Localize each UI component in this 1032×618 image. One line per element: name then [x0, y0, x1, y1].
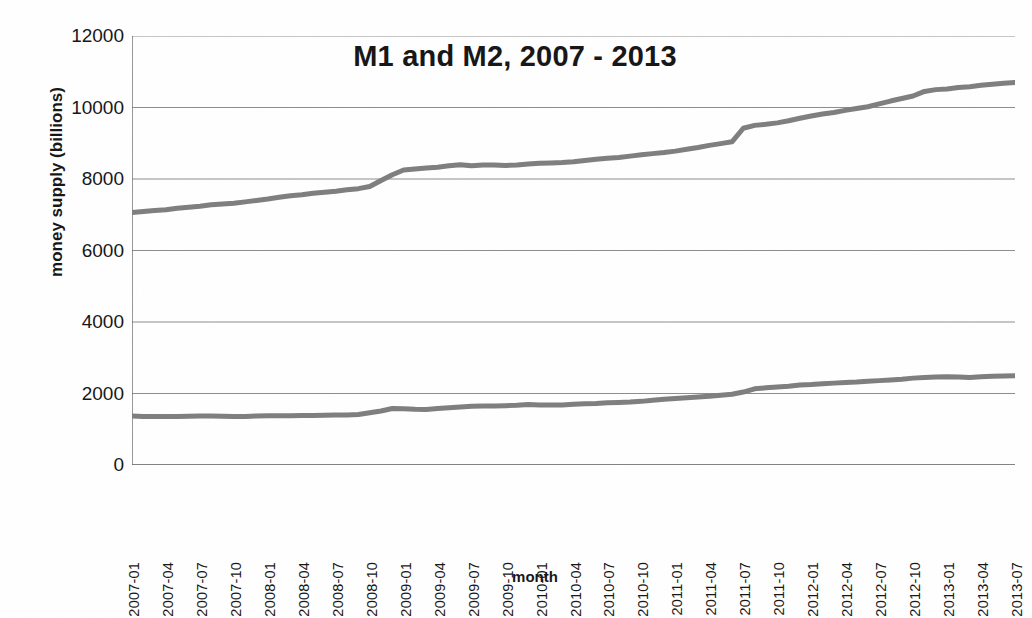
chart-figure: M1 and M2, 2007 - 2013 money supply (bil…	[0, 0, 1032, 618]
y-tick-label: 4000	[6, 311, 124, 333]
plot-area	[132, 36, 1015, 465]
series-line-m1	[132, 376, 1015, 417]
series-line-m2	[132, 82, 1015, 212]
y-tick-label: 10000	[6, 97, 124, 119]
data-series-group	[132, 82, 1015, 416]
y-tick-label: 8000	[6, 168, 124, 190]
y-tick-label: 2000	[6, 383, 124, 405]
y-tick-label: 6000	[6, 240, 124, 262]
x-axis-tick-labels: 2007-012007-042007-072007-102008-012008-…	[132, 470, 1015, 565]
plot-svg	[132, 36, 1015, 465]
x-axis-title-text: month	[512, 568, 558, 585]
y-tick-label: 12000	[6, 25, 124, 47]
x-axis-title: month	[0, 568, 1032, 585]
y-tick-label: 0	[6, 454, 124, 476]
y-axis-tick-labels: 020004000600080001000012000	[0, 0, 124, 618]
gridlines	[132, 36, 1015, 465]
